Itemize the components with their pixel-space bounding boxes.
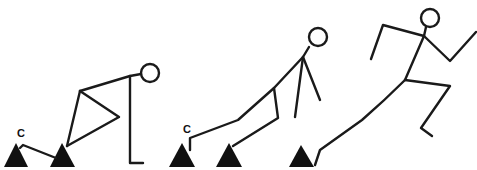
- figure-block-clearance: C: [169, 28, 327, 167]
- front-leg: [67, 91, 119, 146]
- starting-block-front: [50, 143, 75, 167]
- starting-block-front: [216, 143, 242, 167]
- front-leg-shin: [67, 91, 80, 146]
- head: [141, 64, 159, 82]
- rear-leg: [20, 145, 56, 158]
- arm: [130, 76, 143, 163]
- figure-drive-phase: [289, 9, 476, 167]
- rear-leg: [315, 80, 405, 165]
- figure-set-position: C: [4, 64, 159, 167]
- block-label: C: [17, 127, 25, 139]
- block-label: C: [183, 123, 191, 135]
- arm-front: [424, 32, 476, 61]
- torso: [80, 74, 141, 91]
- head: [421, 9, 439, 27]
- head: [309, 28, 327, 46]
- front-leg: [405, 80, 450, 136]
- starting-block: [289, 145, 314, 167]
- arm-right: [303, 57, 320, 100]
- sprint-start-diagram: C C: [0, 0, 477, 170]
